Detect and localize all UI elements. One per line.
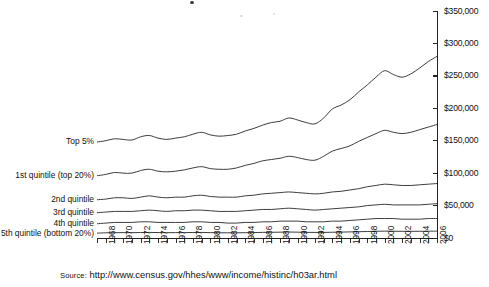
x-axis-tick-label: 1968 <box>109 226 117 244</box>
x-axis-tick <box>385 239 386 243</box>
x-axis-tick-label: 2006 <box>440 226 448 244</box>
x-axis-tick <box>167 239 168 243</box>
x-axis-tick <box>402 239 403 243</box>
x-axis-tick-label: 2004 <box>423 226 431 244</box>
x-axis-tick <box>428 239 429 243</box>
x-axis-tick <box>237 239 238 243</box>
y-axis-tick-label: $150,000 <box>444 136 478 145</box>
x-axis-tick <box>376 239 377 243</box>
x-axis-tick-label: 1984 <box>248 226 256 244</box>
series-line-4 <box>97 218 437 223</box>
series-line-1 <box>97 125 437 176</box>
series-line-0 <box>97 56 437 142</box>
y-axis-tick-label: $200,000 <box>444 104 478 113</box>
x-axis-tick <box>176 239 177 243</box>
x-axis-tick <box>141 239 142 243</box>
plot-area <box>97 11 437 238</box>
x-axis-tick-label: 1974 <box>161 226 169 244</box>
x-axis-tick <box>420 239 421 243</box>
x-axis-tick-label: 1972 <box>144 226 152 244</box>
y-axis-tick-label: $100,000 <box>444 169 478 178</box>
y-axis-tick <box>433 173 438 174</box>
x-axis-tick <box>219 239 220 243</box>
series-line-2 <box>97 184 437 200</box>
x-axis-tick-label: 1976 <box>179 226 187 244</box>
x-axis-tick <box>324 239 325 243</box>
scan-artifact <box>190 1 194 4</box>
x-axis-tick <box>97 239 98 243</box>
series-line-3 <box>97 204 437 213</box>
y-axis-tick <box>433 75 438 76</box>
x-axis-tick <box>306 239 307 243</box>
chart-figure: $0$50,000$100,000$150,000$200,000$250,00… <box>0 0 489 287</box>
x-axis-tick <box>114 239 115 243</box>
x-axis-tick <box>158 239 159 243</box>
x-axis-tick <box>367 239 368 243</box>
x-axis-tick <box>202 239 203 243</box>
y-axis-tick <box>433 43 438 44</box>
x-axis-tick <box>254 239 255 243</box>
x-axis-tick-label: 2000 <box>388 226 396 244</box>
series-label-3: 3rd quintile <box>53 208 94 216</box>
x-axis-tick <box>393 239 394 243</box>
x-axis-tick-label: 1996 <box>353 226 361 244</box>
x-axis-tick <box>193 239 194 243</box>
x-axis-tick <box>271 239 272 243</box>
x-axis-tick <box>437 239 438 243</box>
y-axis-tick <box>433 205 438 206</box>
x-axis-tick <box>228 239 229 243</box>
source-note: Source: http://www.census.gov/hhes/www/i… <box>60 270 337 280</box>
x-axis-tick-label: 1998 <box>371 226 379 244</box>
y-axis-line <box>437 11 438 238</box>
x-axis-tick <box>263 239 264 243</box>
x-axis-tick-label: 1970 <box>126 226 134 244</box>
y-axis-tick-label: $300,000 <box>444 39 478 48</box>
x-axis-tick-label: 1982 <box>231 226 239 244</box>
x-axis-tick <box>280 239 281 243</box>
series-label-1: 1st quintile (top 20%) <box>15 171 94 179</box>
x-axis-tick <box>106 239 107 243</box>
x-axis-tick <box>350 239 351 243</box>
x-axis-tick <box>289 239 290 243</box>
x-axis-tick <box>341 239 342 243</box>
x-axis-tick <box>210 239 211 243</box>
x-axis-tick <box>132 239 133 243</box>
x-axis-tick <box>149 239 150 243</box>
series-lines <box>97 11 437 238</box>
y-axis-tick <box>433 140 438 141</box>
x-axis-tick-label: 1986 <box>266 226 274 244</box>
x-axis-tick-label: 1990 <box>301 226 309 244</box>
x-axis-tick <box>315 239 316 243</box>
series-label-0: Top 5% <box>66 137 94 145</box>
y-axis-tick <box>433 11 438 12</box>
x-axis-tick <box>359 239 360 243</box>
y-axis-tick-label: $50,000 <box>444 201 474 210</box>
x-axis-tick-label: 1994 <box>336 226 344 244</box>
x-axis-tick <box>332 239 333 243</box>
x-axis-tick <box>298 239 299 243</box>
x-axis-tick <box>184 239 185 243</box>
x-axis-tick-label: 1988 <box>283 226 291 244</box>
source-url: http://www.census.gov/hhes/www/income/hi… <box>89 269 337 280</box>
x-axis-tick-label: 2002 <box>405 226 413 244</box>
x-axis-tick <box>411 239 412 243</box>
x-axis-tick-label: 1980 <box>214 226 222 244</box>
series-label-5: 5th quintile (bottom 20%) <box>1 229 94 237</box>
series-label-4: 4th quintile <box>53 219 94 227</box>
x-axis-tick-label: 1978 <box>196 226 204 244</box>
source-kicker: Source: <box>60 271 87 280</box>
x-axis-tick-label: 1992 <box>318 226 326 244</box>
series-label-2: 2nd quintile <box>51 195 94 203</box>
y-axis-tick-label: $250,000 <box>444 71 478 80</box>
y-axis-tick <box>433 108 438 109</box>
y-axis-tick-label: $350,000 <box>444 7 478 16</box>
